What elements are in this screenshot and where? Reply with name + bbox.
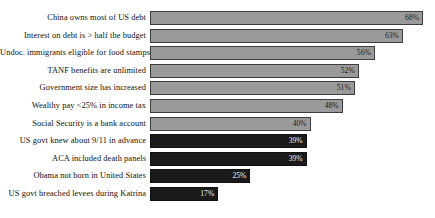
bar-row: ACA included death panels39% [0, 152, 435, 166]
bar-row: US govt breached levees during Katrina17… [0, 187, 435, 201]
bar-track: 39% [150, 152, 435, 166]
bar-value-label: 68% [405, 12, 422, 24]
bar-track: 68% [150, 11, 435, 25]
bar-category-label: US govt breached levees during Katrina [0, 187, 150, 201]
bar-value-label: 40% [293, 118, 310, 130]
bar-track: 17% [150, 187, 435, 201]
bar-category-label: Undoc. immigrants eligible for food stam… [0, 46, 150, 60]
bar-row: China owns most of US debt68% [0, 11, 435, 25]
bar-track: 25% [150, 169, 435, 183]
bar-category-label: Interest on debt is > half the budget [0, 29, 150, 43]
bar-row: US govt knew about 9/11 in advance39% [0, 134, 435, 148]
bar-track: 51% [150, 81, 435, 95]
bar: 39% [150, 152, 307, 166]
bar-value-label: 52% [341, 65, 358, 77]
bar-row: Undoc. immigrants eligible for food stam… [0, 46, 435, 60]
bar-row: Government size has increased51% [0, 81, 435, 95]
bar-track: 63% [150, 29, 435, 43]
bar: 40% [150, 117, 311, 131]
bar-row: Obama not born in United States25% [0, 169, 435, 183]
bar-row: Wealthy pay <25% in income tax48% [0, 99, 435, 113]
bar-track: 52% [150, 64, 435, 78]
bar: 39% [150, 134, 307, 148]
bar: 25% [150, 169, 250, 183]
bar: 17% [150, 187, 218, 201]
bar-track: 56% [150, 46, 435, 60]
horizontal-bar-chart: China owns most of US debt68%Interest on… [0, 0, 435, 218]
bar-row: TANF benefits are unlimited52% [0, 64, 435, 78]
bar-category-label: ACA included death panels [0, 152, 150, 166]
bar: 68% [150, 11, 423, 25]
bar-row: Social Security is a bank account40% [0, 117, 435, 131]
bar-category-label: China owns most of US debt [0, 11, 150, 25]
bar: 48% [150, 99, 343, 113]
bar-value-label: 56% [357, 47, 374, 59]
bar-category-label: US govt knew about 9/11 in advance [0, 134, 150, 148]
bar-value-label: 17% [200, 188, 217, 200]
bar-category-label: Government size has increased [0, 81, 150, 95]
bar-track: 40% [150, 117, 435, 131]
bar: 56% [150, 46, 375, 60]
bar-rows: China owns most of US debt68%Interest on… [0, 11, 435, 201]
bar-value-label: 25% [232, 170, 249, 182]
bar-row: Interest on debt is > half the budget63% [0, 29, 435, 43]
bar-category-label: Obama not born in United States [0, 169, 150, 183]
bar-track: 39% [150, 134, 435, 148]
bar-category-label: Wealthy pay <25% in income tax [0, 99, 150, 113]
bar-value-label: 39% [289, 153, 306, 165]
bar-value-label: 48% [325, 100, 342, 112]
bar: 51% [150, 81, 355, 95]
bar-value-label: 63% [385, 30, 402, 42]
bar-track: 48% [150, 99, 435, 113]
bar-category-label: TANF benefits are unlimited [0, 64, 150, 78]
bar: 63% [150, 29, 403, 43]
bar: 52% [150, 64, 359, 78]
bar-category-label: Social Security is a bank account [0, 117, 150, 131]
bar-value-label: 39% [289, 135, 306, 147]
bar-value-label: 51% [337, 82, 354, 94]
